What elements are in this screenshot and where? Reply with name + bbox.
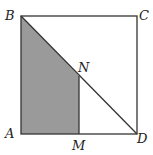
geometry-diagram: B C A D M N bbox=[0, 0, 153, 155]
label-c: C bbox=[139, 8, 149, 23]
label-n: N bbox=[77, 60, 90, 75]
label-m: M bbox=[71, 138, 86, 153]
label-a: A bbox=[4, 126, 14, 141]
label-d: D bbox=[136, 131, 148, 146]
shaded-region-bnma bbox=[21, 16, 79, 134]
label-b: B bbox=[4, 8, 15, 23]
